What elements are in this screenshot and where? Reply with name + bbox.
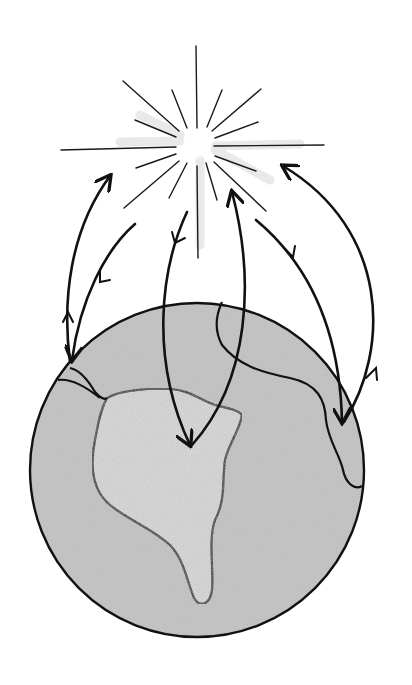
sun-glow bbox=[120, 115, 300, 245]
sun-core bbox=[181, 129, 213, 161]
arrow-chevron-left-down bbox=[100, 270, 110, 282]
sun-earth-energy-illustration bbox=[0, 0, 412, 685]
earth bbox=[30, 302, 364, 637]
sun bbox=[61, 46, 324, 258]
